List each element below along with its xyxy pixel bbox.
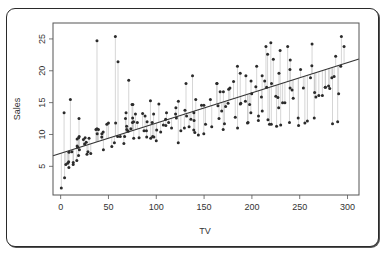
data-point [279, 123, 282, 126]
data-point [114, 122, 117, 125]
x-tick-label: 50 [103, 202, 113, 212]
data-point [155, 139, 158, 142]
data-point [286, 45, 289, 48]
data-point [96, 132, 99, 135]
data-point [197, 134, 200, 137]
data-point [314, 95, 317, 98]
data-point [311, 43, 314, 46]
data-point [70, 150, 73, 153]
data-point [218, 117, 221, 120]
data-point [63, 176, 66, 179]
data-point [202, 104, 205, 107]
data-point [257, 119, 260, 122]
data-point [102, 148, 105, 151]
data-point [194, 98, 197, 101]
data-point [288, 121, 291, 124]
data-point [185, 115, 188, 118]
data-point [75, 159, 78, 162]
data-point [113, 141, 116, 144]
x-tick-label: 200 [244, 202, 259, 212]
data-point [337, 92, 340, 95]
data-point [123, 135, 126, 138]
data-point [191, 74, 194, 77]
y-axis: 510152025 [37, 34, 53, 169]
data-point [227, 102, 230, 105]
data-point [210, 125, 213, 128]
x-tick-label: 0 [58, 202, 63, 212]
x-axis-label: TV [199, 226, 211, 236]
data-point [204, 123, 207, 126]
scatter-plot: 050100150200250300 510152025 TV Sales [0, 0, 382, 253]
data-point [76, 146, 79, 149]
data-point [193, 131, 196, 134]
data-point [110, 145, 113, 148]
data-point [127, 130, 130, 133]
data-point [244, 74, 247, 77]
data-point [263, 79, 266, 82]
y-tick-label: 15 [37, 98, 47, 108]
data-point [244, 100, 247, 103]
data-point [78, 135, 81, 138]
x-tick-label: 300 [340, 202, 355, 212]
data-point [152, 136, 155, 139]
data-point [131, 103, 134, 106]
data-point [265, 86, 268, 89]
data-point [164, 124, 167, 127]
x-axis: 050100150200250300 [58, 195, 355, 212]
regression-line [53, 59, 359, 156]
data-point [270, 123, 273, 126]
data-point [250, 79, 253, 82]
data-point [124, 117, 127, 120]
data-point [77, 154, 80, 157]
data-point [174, 106, 177, 109]
data-point [321, 94, 324, 97]
data-point [132, 120, 135, 123]
data-point [266, 118, 269, 121]
data-point [159, 130, 162, 133]
data-point [127, 79, 130, 82]
y-tick-label: 25 [37, 34, 47, 44]
data-point [129, 127, 132, 130]
data-point [193, 119, 196, 122]
data-point [69, 98, 72, 101]
data-point [100, 136, 103, 139]
data-point [125, 125, 128, 128]
data-point [274, 95, 277, 98]
data-point [279, 49, 282, 52]
data-point [89, 152, 92, 155]
data-point [236, 65, 239, 68]
data-point [60, 186, 63, 189]
data-point [177, 141, 180, 144]
data-point [236, 127, 239, 130]
data-point [183, 127, 186, 130]
data-point [313, 116, 316, 119]
data-point [299, 68, 302, 71]
data-point [260, 95, 263, 98]
data-point [132, 137, 135, 140]
data-point [223, 122, 226, 125]
data-point [257, 115, 260, 118]
data-point [310, 64, 313, 67]
data-point [292, 97, 295, 100]
data-point [136, 121, 139, 124]
data-point [145, 136, 148, 139]
data-point [185, 82, 188, 85]
data-point [277, 106, 280, 109]
data-point [283, 101, 286, 104]
data-point [266, 53, 269, 56]
data-point [144, 115, 147, 118]
data-point [277, 72, 280, 75]
data-point [67, 160, 70, 163]
data-point [306, 120, 309, 123]
data-point [97, 128, 100, 131]
data-point [170, 127, 173, 130]
data-point [269, 41, 272, 44]
data-point [152, 113, 155, 116]
plot-frame [53, 23, 359, 195]
data-point [222, 90, 225, 93]
x-tick-label: 100 [149, 202, 164, 212]
data-point [209, 98, 212, 101]
data-point [297, 124, 300, 127]
data-point [63, 111, 66, 114]
data-point [288, 68, 291, 71]
